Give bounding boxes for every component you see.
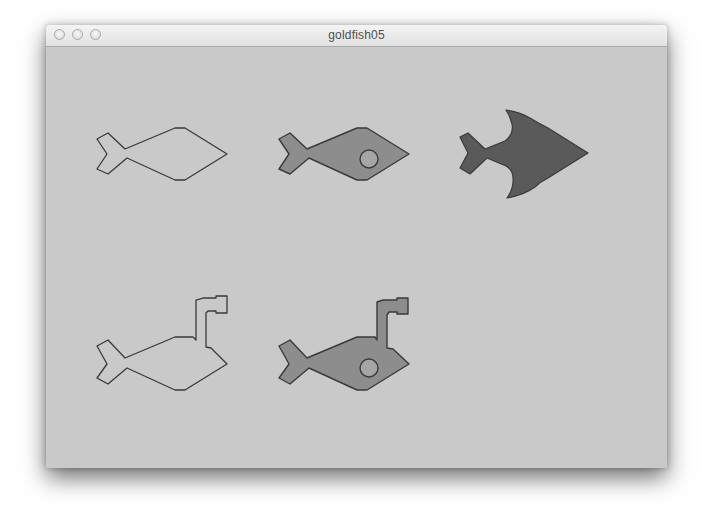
title-bar[interactable]: goldfish05: [46, 25, 667, 47]
fish-outline-icon: [97, 128, 227, 180]
submarine-fish-outline-icon: [97, 296, 227, 390]
app-window: goldfish05: [46, 25, 667, 468]
fish-drawing: [46, 47, 667, 468]
window-title: goldfish05: [46, 28, 667, 42]
fish-eye-icon: [360, 359, 378, 377]
fish-filled-icon: [279, 128, 409, 180]
fish-eye-icon: [360, 150, 378, 168]
sketch-canvas: [46, 47, 667, 468]
shark-icon: [460, 110, 588, 198]
submarine-fish-filled-icon: [279, 298, 409, 390]
